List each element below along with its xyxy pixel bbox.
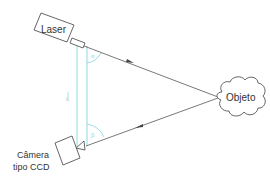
return-beam	[86, 98, 218, 146]
object-cloud: Objeto	[217, 77, 265, 116]
baseline-label: L	[66, 96, 70, 102]
ccd-camera: Câmera tipo CCD	[13, 136, 85, 172]
camera-body	[55, 136, 80, 165]
laser-beam	[84, 46, 218, 97]
laser-device: Laser	[34, 13, 85, 48]
beta-arc	[87, 124, 104, 137]
return-beam-arrow	[135, 124, 143, 128]
alpha-label: α	[91, 53, 95, 59]
laser-label: Laser	[41, 24, 67, 35]
triangulation-diagram: L α β Laser Objeto Câmera tipo CCD	[0, 0, 270, 177]
camera-label-line1: Câmera	[17, 150, 49, 160]
beta-label: β	[91, 132, 95, 138]
object-label: Objeto	[226, 92, 256, 103]
camera-label-line2: tipo CCD	[13, 162, 50, 172]
